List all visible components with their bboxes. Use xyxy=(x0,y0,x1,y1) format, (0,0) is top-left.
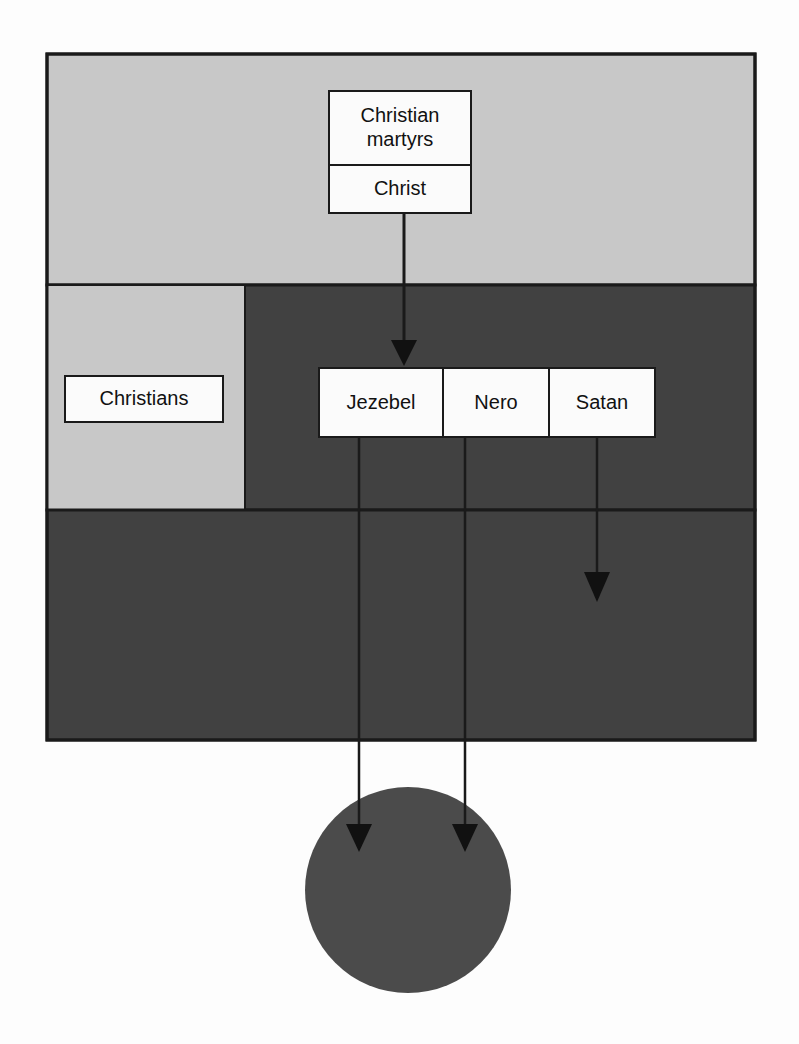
node-label-christians: Christians xyxy=(66,377,222,421)
node-label-jezebel: Jezebel xyxy=(320,369,444,436)
node-label-christian-martyrs: Christian martyrs xyxy=(330,92,470,164)
lower-dark-zone xyxy=(47,510,755,740)
node-label-nero: Nero xyxy=(444,369,550,436)
node-christian-martyrs-christ[interactable]: Christian martyrs Christ xyxy=(328,90,472,214)
bottom-circle xyxy=(305,787,511,993)
node-christians[interactable]: Christians xyxy=(64,375,224,423)
node-label-satan: Satan xyxy=(550,369,654,436)
node-villains-row[interactable]: Jezebel Nero Satan xyxy=(318,367,656,438)
node-label-christ: Christ xyxy=(330,164,470,212)
diagram-canvas: Christian martyrs Christ Christians Jeze… xyxy=(0,0,799,1044)
